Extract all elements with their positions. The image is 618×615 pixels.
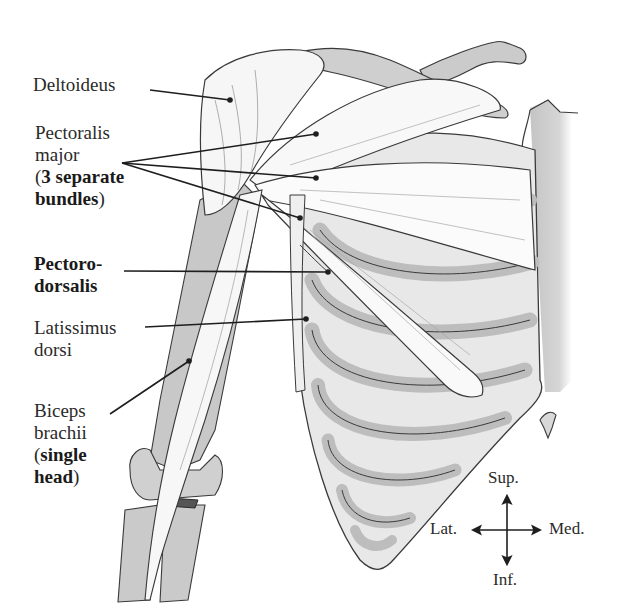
label-text: Pectoralis — [35, 122, 110, 143]
label-line: bundles) — [35, 188, 124, 210]
label-text: major — [35, 144, 79, 165]
label-line: Latissimus — [34, 317, 116, 339]
orientation-lateral: Lat. — [430, 519, 457, 539]
orientation-medial: Med. — [549, 519, 584, 539]
label-line: (single — [34, 444, 87, 466]
label-line: brachii — [34, 422, 87, 444]
label-text-bold: dorsalis — [34, 275, 97, 296]
label-pectoralis-major: Pectoralis major (3 separate bundles) — [35, 122, 124, 210]
label-biceps-brachii: Biceps brachii (single head) — [34, 400, 87, 488]
label-line: dorsalis — [34, 275, 102, 297]
label-text-bold: single — [40, 444, 86, 465]
label-text-bold: bundles — [35, 188, 98, 209]
label-text: Latissimus — [34, 317, 116, 338]
label-text-bold: Pectoro- — [34, 253, 102, 274]
label-line: Biceps — [34, 400, 87, 422]
leader-pectorodorsalis — [124, 271, 328, 272]
anatomy-figure: Deltoideus Pectoralis major (3 separate … — [0, 0, 618, 615]
label-text: brachii — [34, 422, 87, 443]
label-line: (3 separate — [35, 166, 124, 188]
label-paren: ) — [73, 466, 79, 487]
label-text: Deltoideus — [33, 74, 115, 95]
orientation-inferior: Inf. — [493, 570, 517, 590]
label-line: major — [35, 144, 124, 166]
label-text-bold: head — [34, 466, 73, 487]
label-pectorodorsalis: Pectoro- dorsalis — [34, 253, 102, 297]
label-line: Pectoralis — [35, 122, 124, 144]
label-text: dorsi — [34, 339, 72, 360]
label-latissimus-dorsi: Latissimus dorsi — [34, 317, 116, 361]
label-deltoideus: Deltoideus — [33, 74, 115, 96]
label-paren: ) — [98, 188, 104, 209]
label-text-bold: 3 separate — [41, 166, 124, 187]
orientation-superior: Sup. — [488, 468, 519, 488]
label-line: Pectoro- — [34, 253, 102, 275]
label-line: head) — [34, 466, 87, 488]
label-text: Biceps — [34, 400, 86, 421]
label-line: dorsi — [34, 339, 116, 361]
orientation-compass — [473, 496, 540, 564]
